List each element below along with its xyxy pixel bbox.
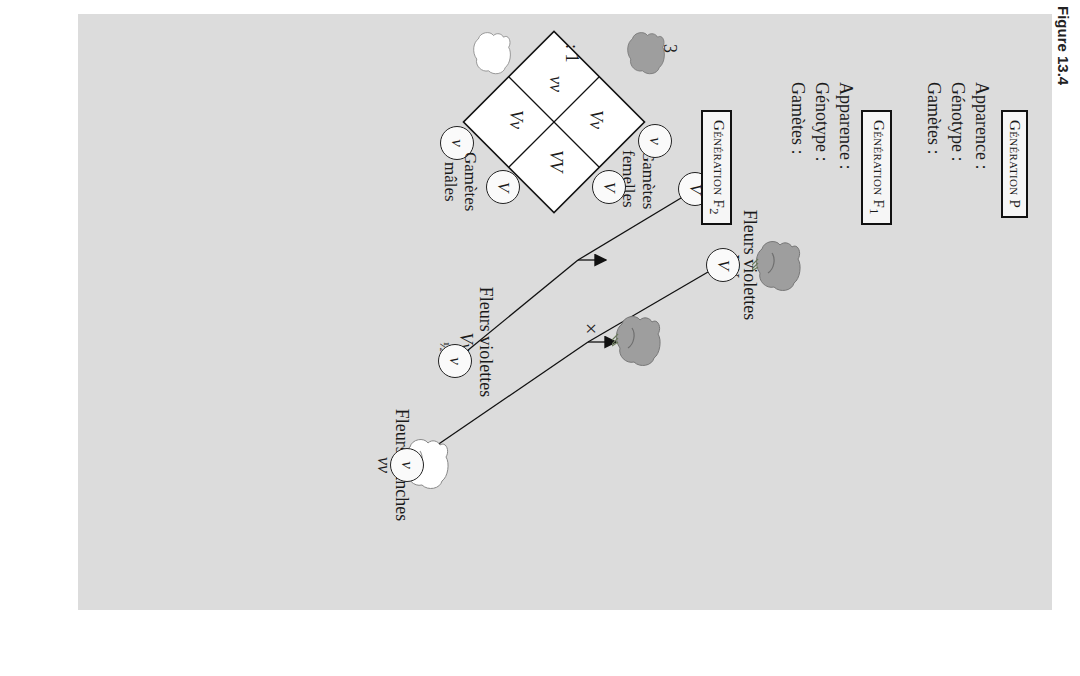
ratio-white-flower-icon	[470, 30, 512, 78]
generation-f2-subscript: 2	[707, 208, 721, 215]
generation-p-title: Génération	[1007, 120, 1023, 200]
f1-purple-flower-icon	[612, 314, 662, 370]
p-appearance-label: Apparence :	[971, 82, 992, 169]
female-gametes-label-1: Gamètes	[638, 150, 658, 209]
cross-symbol: ×	[579, 323, 602, 334]
cross-lines	[78, 14, 1052, 610]
f1-gametes-label: Gamètes :	[787, 82, 808, 154]
female-gamete-v-upper-circle: V	[592, 170, 626, 204]
female-gamete-v-upper: V	[599, 182, 619, 192]
ratio-separator: : 1	[561, 44, 582, 63]
generation-p-letter: P	[1007, 200, 1023, 209]
punnett-cell-vv: vv	[545, 76, 566, 92]
p-right-gamete: v	[397, 461, 417, 469]
male-gametes-label-1: Gamètes	[460, 152, 480, 211]
female-gamete-v-lower: v	[645, 137, 665, 145]
male-gamete-v-upper: V	[493, 182, 513, 192]
p-right-gamete-circle: v	[390, 448, 424, 482]
generation-f1-title: Génération F	[871, 120, 887, 208]
figure-label: Figure 13.4	[1055, 6, 1072, 85]
generation-f1-box: Génération F1	[861, 110, 892, 225]
f1-appearance: Fleurs violettes	[475, 280, 496, 404]
generation-p-box: Génération P	[1001, 110, 1028, 218]
punnett-cell-VV: VV	[545, 150, 566, 172]
p-left-appearance: Fleurs violettes	[739, 203, 760, 327]
diagram-panel: Génération P Apparence : Génotype : Gamè…	[78, 14, 1052, 610]
f1-gamete-right-circle: v	[438, 344, 472, 378]
ratio-purple-flower-icon	[624, 30, 666, 78]
p-gametes-label: Gamètes :	[923, 82, 944, 154]
f1-genotype-label: Génotype :	[811, 82, 832, 161]
female-gamete-v-lower-circle: v	[638, 124, 672, 158]
male-gamete-v-upper-circle: V	[486, 170, 520, 204]
generation-f1-subscript: 1	[867, 208, 881, 215]
generation-f2-title: Génération F	[711, 120, 727, 208]
f1-gamete-right: v	[445, 357, 465, 365]
male-gametes-label-2: mâles	[440, 162, 460, 202]
f1-appearance-label: Apparence :	[835, 82, 856, 169]
p-left-gamete-circle: V	[706, 248, 740, 282]
punnett-cell-Vv-bottom: Vv	[505, 110, 526, 129]
ratio-purple-count: 3	[659, 44, 680, 53]
p-genotype-label: Génotype :	[947, 82, 968, 161]
p-left-gamete: V	[713, 260, 733, 270]
generation-f2-box: Génération F2	[701, 110, 732, 225]
male-gamete-v-lower: v	[447, 139, 467, 147]
rotated-figure-canvas: Figure 13.4 Géné	[0, 0, 1080, 676]
punnett-cell-Vv-top: Vv	[585, 110, 606, 129]
